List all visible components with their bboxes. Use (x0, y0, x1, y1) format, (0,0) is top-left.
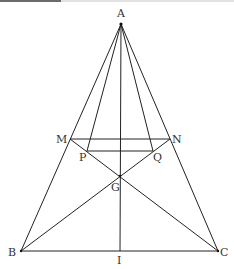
point-C-dot (217, 250, 219, 252)
label-B: B (8, 246, 16, 259)
segment-AC (121, 24, 218, 251)
labels: A M N P Q G B C I (8, 7, 228, 267)
label-A: A (116, 7, 126, 20)
label-G: G (111, 181, 120, 194)
label-N: N (172, 133, 182, 146)
vertex-dots (20, 22, 219, 252)
point-B-dot (20, 250, 22, 252)
label-M: M (56, 133, 67, 146)
segment-AP (87, 24, 121, 151)
label-I: I (117, 254, 121, 267)
label-P: P (79, 151, 87, 164)
point-A-dot (119, 22, 122, 25)
segments (21, 24, 218, 251)
segment-AB (21, 24, 121, 251)
segment-AI (120, 24, 121, 251)
segment-NB (21, 139, 170, 251)
point-G-dot (119, 175, 121, 177)
geometry-diagram: A M N P Q G B C I (0, 0, 234, 269)
label-Q: Q (153, 151, 162, 164)
segment-MC (70, 139, 218, 251)
label-C: C (220, 246, 228, 259)
